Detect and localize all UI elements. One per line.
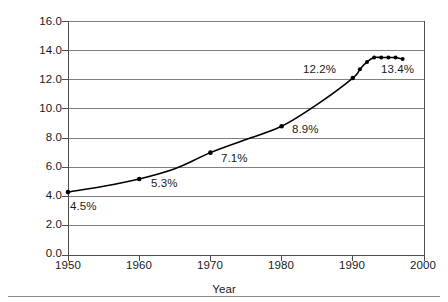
gridlines — [68, 21, 424, 226]
data-marker-1991 — [358, 67, 362, 71]
data-marker-1980 — [279, 124, 284, 129]
data-marker-1993 — [372, 56, 376, 60]
data-marker-1996 — [394, 56, 398, 60]
annotation-4-5-percent: 4.5% — [70, 200, 97, 212]
data-marker-1950 — [66, 190, 71, 195]
plot-area — [0, 0, 448, 302]
annotation-5-3-percent: 5.3% — [151, 177, 178, 189]
data-marker-1995 — [386, 56, 390, 60]
x-axis-title: Year — [0, 283, 448, 295]
annotation-8-9-percent: 8.9% — [292, 123, 319, 135]
annotation-12-2-percent: 12.2% — [303, 63, 336, 75]
data-markers — [66, 56, 405, 195]
data-marker-1992 — [365, 60, 369, 64]
annotation-7-1-percent: 7.1% — [221, 152, 248, 164]
data-marker-1990 — [351, 76, 356, 81]
y-axis-ticks — [62, 21, 68, 255]
data-marker-1970 — [208, 150, 213, 155]
data-marker-1994 — [379, 56, 383, 60]
data-marker-1997 — [401, 57, 405, 61]
chart-figure: % Share of GP 16.0 14.0 12.0 10.0 8.0 6.… — [0, 0, 448, 302]
bottom-divider — [8, 296, 440, 297]
data-marker-1960 — [137, 177, 142, 182]
annotation-13-4-percent: 13.4% — [381, 63, 414, 75]
x-axis-ticks — [68, 255, 424, 261]
